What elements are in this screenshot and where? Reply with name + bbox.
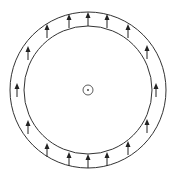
center-dot bbox=[87, 89, 89, 91]
up-arrow-icon bbox=[126, 141, 131, 155]
up-arrow-icon bbox=[145, 45, 150, 59]
arrow-group bbox=[15, 12, 159, 168]
up-arrow-icon bbox=[105, 14, 110, 28]
up-arrow-icon bbox=[154, 83, 159, 97]
up-arrow-icon bbox=[26, 46, 31, 60]
up-arrow-icon bbox=[145, 119, 150, 133]
up-arrow-icon bbox=[45, 24, 50, 38]
ring-diagram bbox=[0, 0, 173, 178]
up-arrow-icon bbox=[15, 83, 20, 97]
up-arrow-icon bbox=[86, 154, 91, 168]
up-arrow-icon bbox=[126, 24, 131, 38]
up-arrow-icon bbox=[105, 152, 110, 166]
up-arrow-icon bbox=[67, 14, 72, 28]
up-arrow-icon bbox=[67, 152, 72, 166]
up-arrow-icon bbox=[26, 120, 31, 134]
up-arrow-icon bbox=[86, 12, 91, 26]
